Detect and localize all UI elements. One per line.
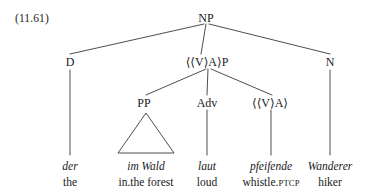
leaf-gloss-pfeifende: whistle.PTCP (242, 176, 299, 190)
leaf-gloss-der: the (62, 176, 77, 190)
node-pp: PP (137, 97, 150, 109)
leaf-form-der: der (62, 160, 77, 174)
node-np: NP (198, 12, 213, 24)
edge-np-n (209, 24, 330, 54)
leaf-form-im-wald: im Wald (119, 160, 174, 174)
leaf-pfeifende: pfeifende whistle.PTCP (242, 160, 299, 189)
tree-branch-lines (70, 24, 330, 155)
leaf-wanderer: Wanderer hiker (308, 160, 353, 189)
leaf-gloss-im-wald: in.the forest (119, 176, 174, 190)
node-vap: ⟨⟨V⟩A⟩P (186, 56, 229, 68)
node-n: N (326, 56, 335, 68)
edge-vap-va (211, 69, 272, 95)
leaf-form-laut: laut (197, 160, 217, 174)
gloss-smallcaps-ptcp: PTCP (278, 178, 299, 188)
leaf-gloss-wanderer: hiker (308, 176, 353, 190)
node-adv: Adv (197, 97, 218, 109)
gloss-stem-pfeifende: whistle. (242, 176, 278, 188)
example-number: (11.61) (15, 12, 49, 24)
pp-triangle (118, 113, 174, 153)
syntax-tree-figure: (11.61) NP D ⟨⟨V⟩A⟩P N PP Adv ⟨⟨V⟩A⟩ der… (0, 0, 368, 192)
leaf-laut: laut loud (197, 160, 217, 189)
node-d: D (66, 56, 75, 68)
edge-np-d (70, 24, 204, 54)
edge-vap-pp (146, 69, 206, 95)
edge-np-vap (201, 24, 206, 54)
leaf-form-wanderer: Wanderer (308, 160, 353, 174)
leaf-form-pfeifende: pfeifende (242, 160, 299, 174)
node-va: ⟨⟨V⟩A⟩ (252, 97, 288, 109)
leaf-der: der the (62, 160, 77, 189)
leaf-gloss-laut: loud (197, 176, 217, 190)
leaf-im-wald: im Wald in.the forest (119, 160, 174, 189)
edge-vap-adv (207, 69, 208, 95)
